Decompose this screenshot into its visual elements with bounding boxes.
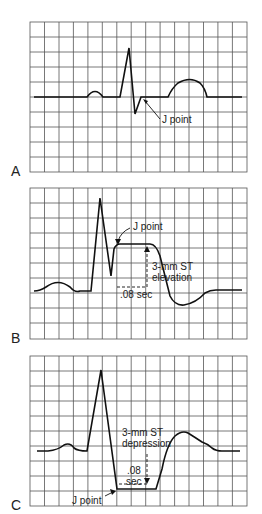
ecg-grid-b	[0, 166, 262, 346]
st-depression-label-line1: 3-mm ST	[122, 428, 163, 438]
st-elevation-label-line1: 3-mm ST	[152, 262, 193, 272]
j-point-label-b: J point	[133, 222, 162, 232]
panel-a-normal-st: A J point	[0, 0, 262, 180]
ecg-grid-a	[0, 0, 262, 180]
ecg-grid-c	[0, 334, 262, 514]
panel-c-st-depression: C 3-mm ST depression .08 sec J point	[0, 334, 262, 514]
interval-label-c-line1: .08	[127, 466, 141, 476]
interval-label-c-line2: sec	[126, 477, 142, 487]
panel-letter-c: C	[11, 497, 21, 513]
ecg-trace-a	[34, 48, 242, 114]
st-depression-label-line2: depression	[122, 439, 171, 449]
panel-b-st-elevation: B J point 3-mm ST elevation .08 sec	[0, 166, 262, 346]
j-point-label-a: J point	[162, 115, 191, 125]
j-point-arrow-a	[145, 101, 160, 119]
interval-label-b: .08 sec	[120, 290, 152, 300]
j-point-label-c: J point	[72, 496, 101, 506]
st-elevation-label-line2: elevation	[152, 273, 192, 283]
